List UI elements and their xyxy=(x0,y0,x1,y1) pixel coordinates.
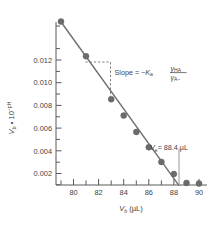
x-tick-label: 82 xyxy=(94,188,102,197)
data-point xyxy=(121,113,127,119)
data-point xyxy=(108,96,114,102)
y-tick-label: 0.002 xyxy=(34,169,53,178)
y-tick-label: 0.004 xyxy=(34,147,53,156)
data-point xyxy=(184,180,190,186)
x-tick-label: 90 xyxy=(195,188,203,197)
y-tick-label: 0.012 xyxy=(34,56,53,65)
y-tick-label: 0.010 xyxy=(34,78,53,87)
data-point xyxy=(158,159,164,165)
slope-denominator-sub: A− xyxy=(174,76,180,82)
y-axis-title-exponent: −pH xyxy=(6,101,12,111)
x-tick-label: 80 xyxy=(69,188,77,197)
svg-text:γA−: γA− xyxy=(171,73,181,82)
x-axis-title: Vb (µL) xyxy=(119,204,143,214)
gran-plot-figure: 0.002 0.004 0.006 0.008 0.010 0.012 xyxy=(0,0,213,233)
data-point xyxy=(196,181,202,187)
x-tick-label: 86 xyxy=(145,188,153,197)
svg-text:Slope = −Ka: Slope = −Ka xyxy=(115,68,154,78)
svg-text:Vb (µL): Vb (µL) xyxy=(119,204,143,214)
y-axis-title-mid: • 10 xyxy=(7,111,16,126)
svg-text:γHA: γHA xyxy=(171,64,182,73)
y-axis-tick-labels: 0.002 0.004 0.006 0.008 0.010 0.012 xyxy=(34,56,53,179)
equivalence-annotation: Ve= 88.4 µL xyxy=(150,143,188,153)
svg-text:Vb • 10−pH: Vb • 10−pH xyxy=(6,101,16,134)
equivalence-value: = 88.4 µL xyxy=(158,143,188,152)
x-tick-label: 84 xyxy=(120,188,128,197)
y-axis-title: Vb • 10−pH xyxy=(6,101,16,134)
slope-annotation: Slope = −Ka γHA γA− xyxy=(115,64,187,83)
chart-canvas: 0.002 0.004 0.006 0.008 0.010 0.012 xyxy=(0,0,213,233)
slope-annotation-lead: Slope = − xyxy=(115,68,146,77)
y-tick-label: 0.008 xyxy=(34,101,53,110)
svg-text:Ve= 88.4 µL: Ve= 88.4 µL xyxy=(150,143,188,153)
data-point xyxy=(133,129,139,135)
data-point xyxy=(171,171,177,177)
y-tick-label: 0.006 xyxy=(34,124,53,133)
x-axis-title-units: (µL) xyxy=(127,204,143,213)
slope-triangle-dashed xyxy=(86,62,111,97)
data-point xyxy=(83,53,89,59)
data-points xyxy=(58,19,202,187)
data-point xyxy=(58,19,64,25)
slope-annotation-ka-sub: a xyxy=(150,71,153,77)
x-tick-label: 88 xyxy=(170,188,178,197)
slope-numerator-sub: HA xyxy=(174,67,182,73)
x-axis-tick-labels: 80 82 84 86 88 90 xyxy=(69,188,203,197)
